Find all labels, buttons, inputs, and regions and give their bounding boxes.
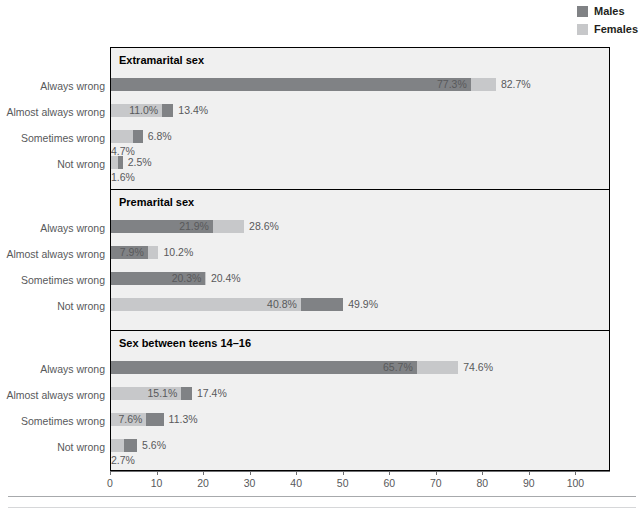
value-label-males: 11.3% (164, 413, 198, 426)
bar-group: 4.7%6.8% (111, 130, 609, 143)
bar-group: 7.9%10.2% (111, 246, 609, 259)
bar-row: Always wrong77.3%82.7% (111, 76, 609, 102)
value-label-females: 1.6% (111, 171, 135, 183)
category-label: Always wrong (40, 222, 105, 234)
x-axis-tick (436, 471, 437, 475)
bar-group: 21.9%28.6% (111, 220, 609, 233)
x-axis-tick-label: 90 (523, 477, 535, 489)
footer-rule-bottom (8, 507, 636, 508)
value-label-males: 17.4% (192, 387, 227, 400)
bar-females (111, 156, 118, 169)
value-label-females: 2.7% (111, 454, 135, 466)
panel-3: Sex between teens 14–16Always wrong65.7%… (111, 330, 609, 470)
x-axis-tick-label: 30 (244, 477, 256, 489)
x-axis-tick-label: 10 (151, 477, 163, 489)
x-axis-line (110, 471, 610, 472)
value-label-males: 5.6% (137, 439, 166, 452)
value-label-females: 11.0% (129, 104, 162, 117)
panel-2: Premarital sexAlways wrong21.9%28.6%Almo… (111, 189, 609, 330)
x-axis-tick (343, 471, 344, 475)
x-axis-tick (157, 471, 158, 475)
bar-group: 15.1%17.4% (111, 387, 609, 400)
value-label-males: 77.3% (437, 78, 471, 91)
legend-item-label: Males (594, 6, 625, 17)
x-axis-tick-label: 100 (567, 477, 585, 489)
x-axis-tick (575, 471, 576, 475)
chart-plot-area: Extramarital sexAlways wrong77.3%82.7%Al… (110, 47, 610, 471)
value-label-females: 15.1% (147, 387, 181, 400)
bar-row: Almost always wrong11.0%13.4% (111, 102, 609, 128)
bar-group: 65.7%74.6% (111, 361, 609, 374)
value-label-females: 82.7% (496, 78, 531, 91)
category-label: Not wrong (57, 441, 105, 453)
bar-males (111, 78, 471, 91)
value-label-males: 13.4% (173, 104, 208, 117)
bar-row: Sometimes wrong4.7%6.8% (111, 128, 609, 154)
panel-title: Premarital sex (119, 196, 194, 208)
legend-item-label: Females (594, 24, 638, 35)
x-axis-tick-label: 80 (476, 477, 488, 489)
value-label-males: 20.3% (172, 272, 206, 285)
x-axis: 0102030405060708090100 (110, 471, 610, 493)
category-label: Always wrong (40, 363, 105, 375)
bar-group: 77.3%82.7% (111, 78, 609, 91)
category-label: Almost always wrong (6, 389, 105, 401)
value-label-females: 28.6% (244, 220, 279, 233)
bar-group: 40.8%49.9% (111, 298, 609, 311)
x-axis-tick (110, 471, 111, 475)
bar-row: Almost always wrong15.1%17.4% (111, 385, 609, 411)
legend-item-males: Males (577, 6, 625, 17)
bar-row: Almost always wrong7.9%10.2% (111, 244, 609, 270)
value-label-males: 49.9% (343, 298, 378, 311)
bar-group: 20.3%20.4% (111, 272, 609, 285)
bar-row: Not wrong40.8%49.9% (111, 296, 609, 322)
bar-row: Sometimes wrong7.6%11.3% (111, 411, 609, 437)
value-label-females: 40.8% (267, 298, 301, 311)
panel-title: Extramarital sex (119, 54, 204, 66)
x-axis-tick (296, 471, 297, 475)
x-axis-tick-label: 0 (107, 477, 113, 489)
x-axis-tick (250, 471, 251, 475)
bar-row: Always wrong65.7%74.6% (111, 359, 609, 385)
bar-males (111, 361, 417, 374)
value-label-females: 7.6% (118, 413, 146, 426)
x-axis-tick-label: 20 (197, 477, 209, 489)
bar-females (111, 130, 133, 143)
panel-1: Extramarital sexAlways wrong77.3%82.7%Al… (111, 48, 609, 189)
footer-rule-top (8, 496, 636, 497)
value-label-males: 65.7% (383, 361, 417, 374)
value-label-males: 6.8% (143, 130, 172, 143)
category-label: Almost always wrong (6, 248, 105, 260)
bar-group: 2.7%5.6% (111, 439, 609, 452)
legend-item-females: Females (577, 24, 638, 35)
legend-swatch-females (577, 24, 588, 35)
value-label-males: 2.5% (123, 156, 152, 169)
x-axis-tick (389, 471, 390, 475)
bar-group: 11.0%13.4% (111, 104, 609, 117)
value-label-males: 7.9% (120, 246, 148, 259)
value-label-females: 10.2% (158, 246, 193, 259)
bar-row: Sometimes wrong20.3%20.4% (111, 270, 609, 296)
value-label-females: 74.6% (458, 361, 493, 374)
x-axis-tick (482, 471, 483, 475)
chart-legend: MalesFemales (577, 6, 638, 35)
bar-row: Not wrong1.6%2.5% (111, 154, 609, 180)
legend-swatch-males (577, 6, 588, 17)
x-axis-tick-label: 40 (290, 477, 302, 489)
value-label-females: 20.4% (206, 272, 241, 285)
bar-females (111, 439, 124, 452)
category-label: Not wrong (57, 158, 105, 170)
x-axis-tick-label: 50 (337, 477, 349, 489)
category-label: Almost always wrong (6, 106, 105, 118)
category-label: Sometimes wrong (21, 274, 105, 286)
x-axis-tick-label: 60 (383, 477, 395, 489)
category-label: Sometimes wrong (21, 132, 105, 144)
x-axis-tick (203, 471, 204, 475)
category-label: Not wrong (57, 300, 105, 312)
bar-row: Not wrong2.7%5.6% (111, 437, 609, 463)
x-axis-tick (529, 471, 530, 475)
bar-group: 7.6%11.3% (111, 413, 609, 426)
panel-title: Sex between teens 14–16 (119, 337, 251, 349)
category-label: Sometimes wrong (21, 415, 105, 427)
bar-row: Always wrong21.9%28.6% (111, 218, 609, 244)
